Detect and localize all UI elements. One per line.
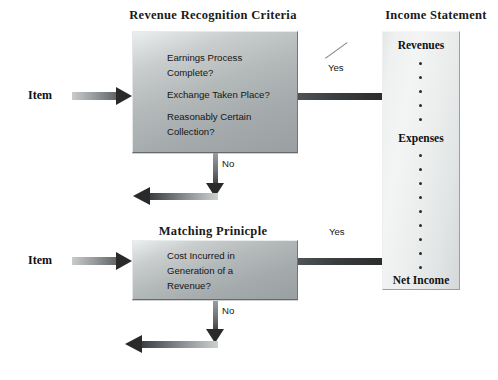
arrow-head xyxy=(125,335,142,353)
revenue-line-4: Reasonably Certain xyxy=(167,109,251,125)
heading-income-statement: Income Statement xyxy=(377,8,495,23)
dot xyxy=(419,118,422,121)
diagram-canvas: Revenue Recognition Criteria Income Stat… xyxy=(0,0,498,380)
dot xyxy=(419,182,422,185)
matching-line-3: Revenue? xyxy=(167,278,211,294)
dot xyxy=(419,210,422,213)
decision-box-matching-principle: Cost Incurred in Generation of a Revenue… xyxy=(132,240,298,300)
arrow-shaft xyxy=(298,258,388,265)
income-statement-revenues: Revenues xyxy=(383,39,459,51)
arrow-shaft xyxy=(298,93,388,100)
yes-top-leader-line xyxy=(325,42,347,59)
arrow-head xyxy=(116,252,132,270)
heading-matching-principle: Matching Prinicple xyxy=(133,224,293,239)
income-statement-expenses: Expenses xyxy=(383,132,459,144)
dot xyxy=(419,238,422,241)
input-label-item-top: Item xyxy=(28,88,52,103)
arrow-head xyxy=(133,187,150,205)
dot xyxy=(419,224,422,227)
dot xyxy=(419,76,422,79)
input-label-item-bottom: Item xyxy=(28,253,52,268)
revenue-line-3: Exchange Taken Place? xyxy=(167,87,270,103)
matching-line-2: Generation of a xyxy=(167,263,233,279)
dot xyxy=(419,196,422,199)
matching-line-1: Cost Incurred in xyxy=(167,248,235,264)
dot xyxy=(419,168,422,171)
arrow-head xyxy=(116,87,132,105)
dot xyxy=(419,252,422,255)
arrow-shaft xyxy=(150,193,218,200)
dot xyxy=(419,266,422,269)
income-statement-net-income: Net Income xyxy=(383,274,459,286)
heading-revenue-recognition-criteria: Revenue Recognition Criteria xyxy=(113,8,313,23)
revenue-line-5: Collection? xyxy=(167,124,214,140)
revenue-line-1: Earnings Process xyxy=(167,50,242,66)
arrow-shaft xyxy=(72,92,118,100)
edge-label-no-bottom: No xyxy=(222,305,234,316)
arrow-shaft xyxy=(72,257,118,265)
edge-label-yes-top: Yes xyxy=(328,62,344,73)
decision-box-revenue-recognition: Earnings Process Complete? Exchange Take… xyxy=(132,31,298,153)
no-bottom-vertical-shaft xyxy=(213,301,218,331)
dot xyxy=(419,154,422,157)
revenue-line-2: Complete? xyxy=(167,65,213,81)
dot xyxy=(419,62,422,65)
no-top-vertical-shaft xyxy=(213,153,218,185)
arrow-shaft xyxy=(142,341,218,348)
income-statement-column: Revenues Expenses Net Income xyxy=(382,31,460,290)
dot xyxy=(419,104,422,107)
edge-label-no-top: No xyxy=(222,158,234,169)
dot xyxy=(419,90,422,93)
edge-label-yes-bottom: Yes xyxy=(329,226,345,237)
